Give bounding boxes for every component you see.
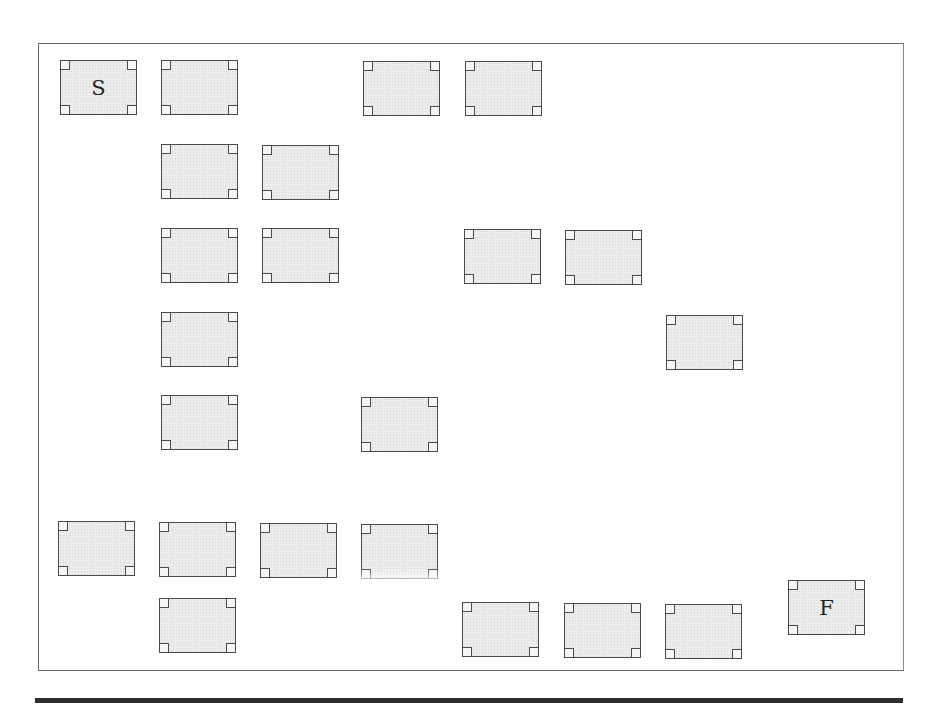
corner-square-icon <box>228 440 238 450</box>
corner-square-icon <box>361 569 371 579</box>
room <box>262 145 339 200</box>
corner-square-icon <box>228 228 238 238</box>
corner-square-icon <box>161 395 171 405</box>
corner-square-icon <box>226 598 236 608</box>
corner-square-icon <box>855 625 865 635</box>
corner-square-icon <box>127 60 137 70</box>
corner-square-icon <box>632 275 642 285</box>
corner-square-icon <box>465 61 475 71</box>
corner-square-icon <box>732 604 742 614</box>
room <box>565 230 642 285</box>
corner-square-icon <box>262 273 272 283</box>
corner-square-icon <box>565 230 575 240</box>
corner-square-icon <box>329 273 339 283</box>
corner-square-icon <box>329 190 339 200</box>
room <box>262 228 339 283</box>
corner-square-icon <box>361 442 371 452</box>
room <box>161 144 238 199</box>
corner-square-icon <box>161 105 171 115</box>
corner-square-icon <box>788 625 798 635</box>
corner-square-icon <box>665 604 675 614</box>
corner-square-icon <box>462 602 472 612</box>
corner-square-icon <box>161 228 171 238</box>
corner-square-icon <box>125 566 135 576</box>
room <box>161 395 238 450</box>
corner-square-icon <box>430 106 440 116</box>
room <box>363 61 440 116</box>
corner-square-icon <box>161 144 171 154</box>
corner-square-icon <box>632 230 642 240</box>
corner-square-icon <box>430 61 440 71</box>
room <box>665 604 742 659</box>
room-label: S <box>61 76 136 100</box>
room <box>159 522 236 577</box>
corner-square-icon <box>327 568 337 578</box>
room <box>564 603 641 658</box>
corner-square-icon <box>228 60 238 70</box>
room-label: F <box>789 596 864 620</box>
corner-square-icon <box>125 521 135 531</box>
room <box>462 602 539 657</box>
corner-square-icon <box>60 105 70 115</box>
corner-square-icon <box>161 312 171 322</box>
room <box>260 523 337 578</box>
corner-square-icon <box>531 229 541 239</box>
corner-square-icon <box>666 315 676 325</box>
corner-square-icon <box>665 649 675 659</box>
corner-square-icon <box>228 395 238 405</box>
corner-square-icon <box>465 106 475 116</box>
corner-square-icon <box>159 567 169 577</box>
room <box>161 312 238 367</box>
corner-square-icon <box>226 643 236 653</box>
corner-square-icon <box>464 229 474 239</box>
room <box>361 397 438 452</box>
room <box>464 229 541 284</box>
room <box>465 61 542 116</box>
corner-square-icon <box>855 580 865 590</box>
corner-square-icon <box>161 60 171 70</box>
corner-square-icon <box>327 523 337 533</box>
corner-square-icon <box>226 567 236 577</box>
bottom-rule <box>35 698 903 703</box>
corner-square-icon <box>532 61 542 71</box>
corner-square-icon <box>361 524 371 534</box>
corner-square-icon <box>262 145 272 155</box>
corner-square-icon <box>428 397 438 407</box>
corner-square-icon <box>529 602 539 612</box>
corner-square-icon <box>262 190 272 200</box>
corner-square-icon <box>159 598 169 608</box>
corner-square-icon <box>788 580 798 590</box>
room <box>159 598 236 653</box>
corner-square-icon <box>127 105 137 115</box>
corner-square-icon <box>260 523 270 533</box>
corner-square-icon <box>532 106 542 116</box>
corner-square-icon <box>428 442 438 452</box>
corner-square-icon <box>228 357 238 367</box>
corner-square-icon <box>228 312 238 322</box>
corner-square-icon <box>428 569 438 579</box>
corner-square-icon <box>159 643 169 653</box>
start-room: S <box>60 60 137 115</box>
corner-square-icon <box>363 61 373 71</box>
room <box>161 60 238 115</box>
corner-square-icon <box>529 647 539 657</box>
corner-square-icon <box>631 603 641 613</box>
corner-square-icon <box>733 360 743 370</box>
corner-square-icon <box>228 144 238 154</box>
room <box>361 524 438 579</box>
corner-square-icon <box>361 397 371 407</box>
corner-square-icon <box>228 105 238 115</box>
corner-square-icon <box>228 189 238 199</box>
corner-square-icon <box>564 648 574 658</box>
corner-square-icon <box>228 273 238 283</box>
room <box>666 315 743 370</box>
corner-square-icon <box>631 648 641 658</box>
corner-square-icon <box>428 524 438 534</box>
corner-square-icon <box>363 106 373 116</box>
finish-room: F <box>788 580 865 635</box>
room <box>161 228 238 283</box>
corner-square-icon <box>732 649 742 659</box>
corner-square-icon <box>262 228 272 238</box>
corner-square-icon <box>159 522 169 532</box>
corner-square-icon <box>226 522 236 532</box>
